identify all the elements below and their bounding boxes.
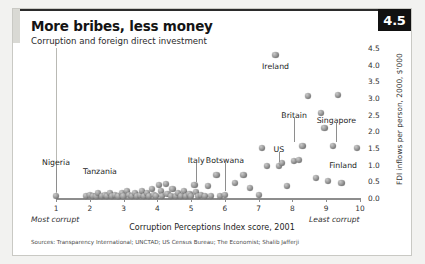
y-axis-tick-label: 0.0	[368, 194, 380, 203]
y-axis-tick-label: 0.5	[368, 177, 380, 186]
y-axis-title: FDI inflows per person, 2000, $'000	[395, 53, 404, 185]
x-axis-tick	[326, 198, 327, 202]
scatter-point	[284, 183, 290, 189]
scatter-point	[354, 145, 360, 151]
y-axis-tick-label: 3.5	[368, 77, 380, 86]
y-axis-tick-label: 2.0	[368, 127, 380, 136]
scatter-point	[335, 92, 341, 98]
x-axis-tick	[360, 198, 361, 202]
scatter-point	[205, 183, 211, 189]
scatter-point	[313, 175, 319, 181]
scatter-point	[191, 182, 197, 188]
point-label-ireland: Ireland	[262, 62, 289, 71]
x-axis-tick-label: 6	[223, 204, 228, 213]
scatter-point	[149, 186, 155, 192]
scatter-point	[264, 163, 270, 169]
figure-panel: 4.5 More bribes, less money Corruption a…	[12, 8, 412, 256]
point-label-tanzania: Tanzania	[83, 167, 117, 176]
x-axis-tick-label: 4	[155, 204, 160, 213]
x-axis-tick	[225, 198, 226, 202]
x-axis-title: Corruption Perceptions Index score, 2001	[129, 223, 294, 232]
scatter-point	[279, 160, 285, 166]
x-axis-tick-label: 2	[87, 204, 92, 213]
scatter-point	[256, 192, 262, 198]
scatter-point	[163, 181, 169, 187]
point-label-finland: Finland	[329, 161, 357, 170]
x-axis-tick-label: 5	[189, 204, 194, 213]
scatter-point	[338, 180, 344, 186]
scatter-point	[330, 143, 336, 149]
y-axis-tick-label: 4.0	[368, 60, 380, 69]
y-axis-tick-label: 4.5	[368, 44, 380, 53]
y-axis-tick-label: 3.0	[368, 94, 380, 103]
x-axis-tick-label: 7	[256, 204, 261, 213]
leader-line	[56, 165, 57, 192]
scatter-point	[240, 172, 246, 178]
leader-line	[279, 152, 280, 163]
y-axis-tick-label: 1.5	[368, 144, 380, 153]
x-axis-tick-label: 8	[290, 204, 295, 213]
chart-page: 4.5 More bribes, less money Corruption a…	[0, 0, 425, 264]
scatter-point	[296, 157, 302, 163]
x-axis-tick-label: 1	[54, 204, 59, 213]
x-axis-tick	[259, 198, 260, 202]
x-axis-tick-label: 9	[324, 204, 329, 213]
x-axis-tick	[292, 198, 293, 202]
leader-line	[225, 163, 226, 192]
sources-note: Sources: Transparency International; UNC…	[31, 239, 299, 245]
scatter-point	[247, 185, 253, 191]
leader-line	[294, 118, 295, 142]
x-axis-right-note: Least corrupt	[309, 215, 360, 224]
y-axis-tick-label: 2.5	[368, 110, 380, 119]
y-axis-tick-label: 1.0	[368, 160, 380, 169]
scatter-point	[259, 145, 265, 151]
leader-line	[336, 123, 337, 143]
scatter-point	[305, 93, 311, 99]
scatter-point	[232, 180, 238, 186]
x-axis-left-note: Most corrupt	[31, 215, 79, 224]
scatter-point	[272, 52, 278, 58]
scatter-point	[213, 172, 219, 178]
scatter-point	[299, 143, 305, 149]
scatter-point	[325, 178, 331, 184]
scatter-point	[156, 182, 162, 188]
x-axis-tick-label: 10	[355, 204, 364, 213]
x-axis-tick-label: 3	[121, 204, 126, 213]
scatter-point	[321, 125, 327, 131]
leader-line	[196, 163, 197, 183]
